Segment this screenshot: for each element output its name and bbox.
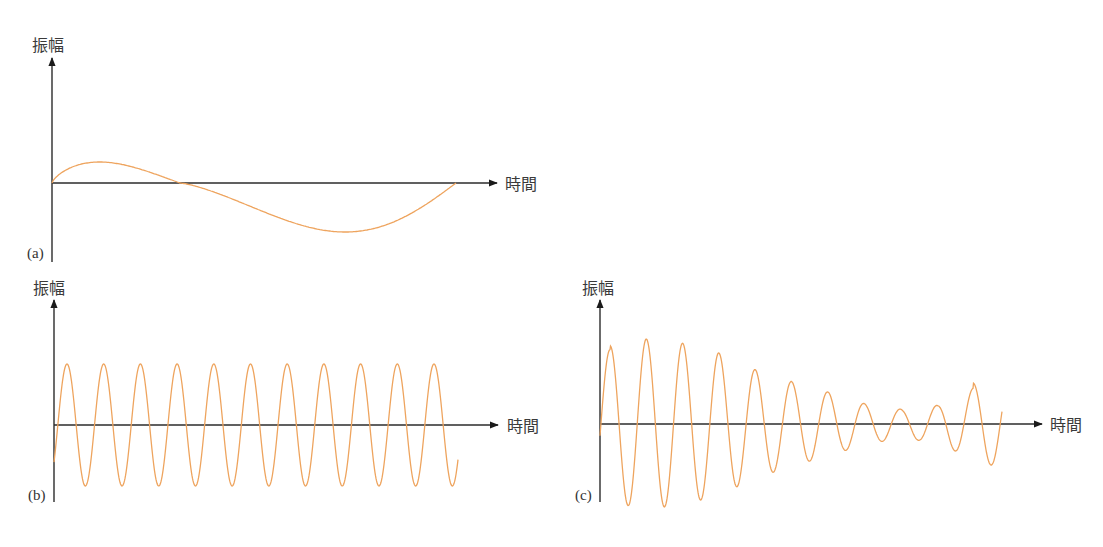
panel-a: 振幅 時間 (a) [27,36,537,262]
panel-label: (b) [28,487,46,504]
y-axis-label: 振幅 [32,36,64,55]
wave-line [600,339,1002,507]
panel-label: (a) [27,245,44,262]
x-axis-label: 時間 [505,175,537,194]
panel-b: 振幅 時間 (b) [28,279,539,504]
panel-label: (c) [575,487,592,504]
x-axis-label: 時間 [1050,416,1082,435]
y-axis-label: 振幅 [582,279,614,298]
y-axis-label: 振幅 [33,279,65,298]
panel-c: 振幅 時間 (c) [575,279,1082,507]
x-axis-label: 時間 [507,417,539,436]
figure: 振幅 時間 (a) 振幅 時間 (b) 振幅 時間 (c) [0,0,1103,547]
wave-line [52,162,456,232]
